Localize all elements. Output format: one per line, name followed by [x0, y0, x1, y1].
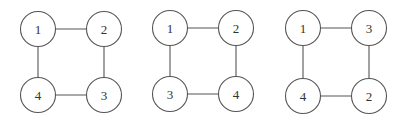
node-2: 2	[87, 12, 122, 47]
graph-3: 1234	[286, 11, 387, 114]
node-2: 2	[219, 11, 254, 46]
graph-2: 1234	[153, 11, 254, 112]
node-1: 1	[286, 11, 321, 46]
node-3: 3	[87, 78, 122, 113]
node-4: 4	[21, 78, 56, 113]
node-label: 1	[300, 21, 307, 36]
node-1: 1	[153, 11, 188, 46]
node-label: 2	[101, 22, 108, 37]
node-label: 4	[233, 87, 240, 102]
node-label: 2	[233, 21, 240, 36]
graph-diagram: 123412341234	[0, 0, 407, 121]
node-label: 3	[366, 21, 373, 36]
node-1: 1	[21, 12, 56, 47]
node-3: 3	[352, 11, 387, 46]
node-label: 2	[366, 89, 373, 104]
node-label: 3	[167, 87, 174, 102]
node-label: 1	[167, 21, 174, 36]
node-4: 4	[286, 79, 321, 114]
node-label: 3	[101, 88, 108, 103]
node-4: 4	[219, 77, 254, 112]
node-label: 4	[35, 88, 42, 103]
node-3: 3	[153, 77, 188, 112]
graph-1: 1234	[21, 12, 122, 113]
node-label: 4	[300, 89, 307, 104]
node-2: 2	[352, 79, 387, 114]
node-label: 1	[35, 22, 42, 37]
